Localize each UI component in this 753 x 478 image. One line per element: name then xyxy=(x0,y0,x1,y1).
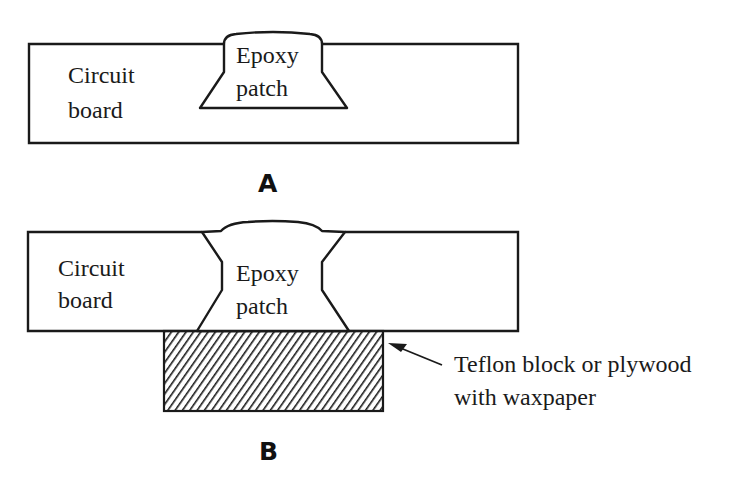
board-label-a-line1: Circuit xyxy=(68,62,135,88)
panel-label-a: A xyxy=(258,169,278,198)
callout-arrow xyxy=(388,343,442,365)
panel-label-b: B xyxy=(259,437,278,466)
patch-label-a-line1: Epoxy xyxy=(236,42,299,68)
patch-label-b-line1: Epoxy xyxy=(236,260,299,286)
board-label-b-line1: Circuit xyxy=(58,255,125,281)
epoxy-patch-diagram: Circuit board Epoxy patch A Circuit boar… xyxy=(0,0,753,478)
patch-label-a-line2: patch xyxy=(236,75,288,101)
board-label-b-line2: board xyxy=(58,287,113,313)
block-callout-line2: with waxpaper xyxy=(454,384,596,410)
panel-b: Circuit board Epoxy patch Teflon block o… xyxy=(28,221,692,466)
patch-label-b-line2: patch xyxy=(236,293,288,319)
panel-a: Circuit board Epoxy patch A xyxy=(29,32,518,198)
arrowhead-icon xyxy=(388,343,407,352)
teflon-block xyxy=(164,331,383,411)
board-label-a-line2: board xyxy=(68,97,123,123)
block-callout-line1: Teflon block or plywood xyxy=(454,351,692,377)
